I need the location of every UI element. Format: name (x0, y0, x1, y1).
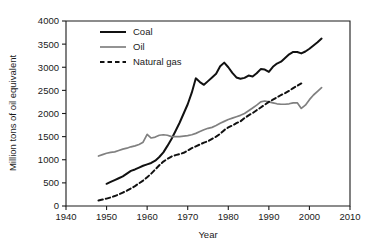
y-tick-label: 3500 (38, 39, 59, 50)
y-tick-label: 3000 (38, 62, 59, 73)
x-tick-label: 1970 (177, 211, 198, 222)
line-chart: 19401950196019701980199020002010 0500100… (0, 0, 373, 250)
legend-label-coal: Coal (133, 26, 153, 37)
x-tick-label: 2000 (299, 211, 320, 222)
legend-label-natural-gas: Natural gas (133, 56, 182, 67)
x-tick-label: 1940 (55, 211, 76, 222)
x-tick-label: 1980 (218, 211, 239, 222)
legend-label-oil: Oil (133, 41, 145, 52)
y-tick-label: 2500 (38, 85, 59, 96)
y-tick-label: 4000 (38, 15, 59, 26)
y-axis-title: Million tons of oil equivalent (7, 55, 18, 172)
chart-figure: 19401950196019701980199020002010 0500100… (0, 0, 373, 250)
y-tick-label: 1500 (38, 131, 59, 142)
y-tick-label: 0 (54, 200, 59, 211)
x-tick-label: 2010 (339, 211, 360, 222)
y-tick-label: 1000 (38, 154, 59, 165)
x-axis-title: Year (198, 229, 217, 240)
x-tick-label: 1960 (137, 211, 158, 222)
y-tick-label: 500 (43, 177, 59, 188)
x-tick-label: 1990 (258, 211, 279, 222)
x-tick-label: 1950 (96, 211, 117, 222)
y-tick-label: 2000 (38, 108, 59, 119)
